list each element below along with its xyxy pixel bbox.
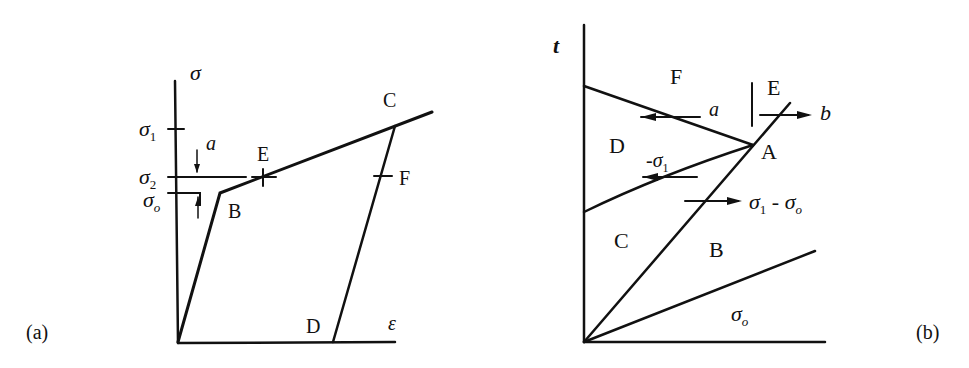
wave-label-minus-sigma1: -σ1 <box>646 149 669 175</box>
arrow-a-down-head <box>194 164 200 173</box>
point-F-label: F <box>399 167 410 189</box>
wave-label-sigma1-minus-sigma0: σ1 - σo <box>749 189 803 217</box>
panel-label-a: (a) <box>26 321 48 344</box>
region-B-label: B <box>709 237 724 262</box>
arrow-sigma1-minus-sigma0-head <box>727 197 742 205</box>
sigma-axis <box>175 81 178 343</box>
figure-a: σ ε σ1 σ2 σo a B C D E F (a) <box>26 60 432 344</box>
point-D-label: D <box>306 315 320 337</box>
epsilon-axis-label: ε <box>388 312 396 334</box>
region-A-label: A <box>761 139 777 164</box>
point-C-label: C <box>383 89 396 111</box>
sigma1-label: σ1 <box>139 116 156 144</box>
annotation-a: a <box>206 132 216 154</box>
sigma-axis-label: σ <box>190 60 202 85</box>
wave-label-b: b <box>820 100 831 125</box>
region-E-label: E <box>767 75 780 100</box>
characteristic-sigma0 <box>584 251 815 342</box>
region-C-label: C <box>614 228 629 253</box>
line-sigma0 <box>168 193 200 205</box>
panel-label-b: (b) <box>916 321 939 344</box>
unloading-line-CD <box>333 126 395 342</box>
point-E-label: E <box>257 143 269 165</box>
t-axis-label: t <box>553 33 560 58</box>
figure-b: t F E D A C B a b -σ1 σ1 - σo σo (b) <box>553 25 939 344</box>
arrow-b-head <box>797 111 812 119</box>
stress-strain-curve <box>178 112 432 342</box>
wave-label-sigma0: σo <box>731 301 749 329</box>
arrow-minus-sigma1-head <box>643 173 658 181</box>
point-B-label: B <box>228 200 241 222</box>
region-D-label: D <box>609 133 625 158</box>
epsilon-axis <box>178 342 395 343</box>
sigma0-label: σo <box>143 187 161 215</box>
wave-label-a: a <box>709 98 719 120</box>
arrow-a-head <box>641 113 656 121</box>
region-F-label: F <box>670 64 682 89</box>
figure-canvas: σ ε σ1 σ2 σo a B C D E F (a) <box>0 0 969 368</box>
